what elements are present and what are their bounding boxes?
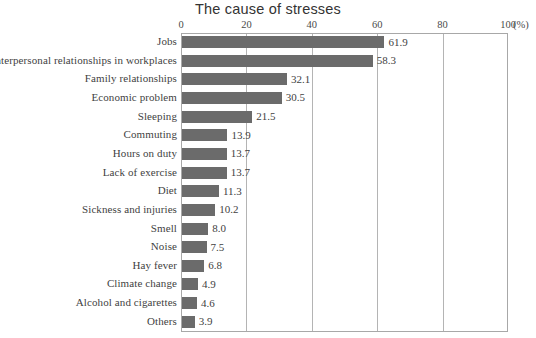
bar-value-label: 6.8 [208, 259, 222, 271]
bar [182, 92, 282, 104]
bar-value-label: 4.6 [201, 297, 215, 309]
category-label: Sleeping [138, 110, 177, 122]
chart-title: The cause of stresses [0, 1, 536, 17]
bar [182, 185, 219, 197]
x-axis-unit-label: (%) [513, 19, 529, 30]
bar-row: Noise7.5 [0, 238, 536, 257]
category-label: Alcohol and cigarettes [76, 296, 177, 308]
bar-value-label: 4.9 [202, 278, 216, 290]
bar-value-label: 30.5 [286, 91, 305, 103]
x-tick-label-60: 60 [372, 19, 383, 30]
bar-value-label: 21.5 [256, 110, 275, 122]
x-axis-tick-labels: 020406080100(%) [0, 19, 536, 33]
category-label: Climate change [107, 277, 177, 289]
bar-value-label: 58.3 [377, 54, 396, 66]
category-label: Sickness and injuries [82, 203, 177, 215]
x-tick-label-80: 80 [437, 19, 448, 30]
bar [182, 260, 204, 272]
bar [182, 167, 227, 179]
bar-row: Lack of exercise13.7 [0, 164, 536, 183]
bar-row: Others3.9 [0, 313, 536, 332]
bar-value-label: 8.0 [212, 222, 226, 234]
x-tick-label-20: 20 [241, 19, 252, 30]
bar-row: Climate change4.9 [0, 275, 536, 294]
bar-row: Sleeping21.5 [0, 108, 536, 127]
category-label: Diet [158, 184, 177, 196]
x-tick-label-0: 0 [178, 19, 183, 30]
bar-row: Sickness and injuries10.2 [0, 201, 536, 220]
bar-row: Family relationships32.1 [0, 70, 536, 89]
category-label: Smell [151, 222, 177, 234]
bar-row: Diet11.3 [0, 182, 536, 201]
bar-row: Hours on duty13.7 [0, 145, 536, 164]
bar [182, 111, 252, 123]
category-label: Interpersonal relationships in workplace… [0, 54, 177, 66]
category-label: Economic problem [91, 91, 177, 103]
bar-rows: Jobs61.9Interpersonal relationships in w… [0, 33, 536, 332]
bar [182, 55, 373, 67]
bar-value-label: 11.3 [223, 185, 242, 197]
bar [182, 148, 227, 160]
bar [182, 241, 207, 253]
category-label: Jobs [157, 35, 177, 47]
bar-value-label: 7.5 [211, 241, 225, 253]
bar-row: Economic problem30.5 [0, 89, 536, 108]
category-label: Hours on duty [113, 147, 177, 159]
bar-row: Alcohol and cigarettes4.6 [0, 294, 536, 313]
category-label: Family relationships [85, 72, 177, 84]
category-label: Noise [151, 240, 177, 252]
bar [182, 129, 227, 141]
bar-row: Commuting13.9 [0, 126, 536, 145]
bar-chart: The cause of stresses 020406080100(%) Jo… [0, 0, 536, 338]
bar-value-label: 61.9 [388, 36, 407, 48]
category-label: Hay fever [132, 259, 177, 271]
x-tick-label-40: 40 [307, 19, 318, 30]
bar-value-label: 32.1 [291, 73, 310, 85]
bar-value-label: 13.7 [231, 147, 250, 159]
category-label: Others [147, 315, 177, 327]
bar [182, 297, 197, 309]
bar [182, 316, 195, 328]
bar-value-label: 13.7 [231, 166, 250, 178]
bar [182, 278, 198, 290]
bar [182, 73, 287, 85]
bar-row: Jobs61.9 [0, 33, 536, 52]
bar-value-label: 3.9 [199, 315, 213, 327]
category-label: Lack of exercise [103, 166, 177, 178]
bar-row: Smell8.0 [0, 220, 536, 239]
bar [182, 36, 384, 48]
bar [182, 223, 208, 235]
bar-value-label: 10.2 [219, 203, 238, 215]
bar-value-label: 13.9 [231, 129, 250, 141]
bar-row: Hay fever6.8 [0, 257, 536, 276]
category-label: Commuting [124, 128, 177, 140]
bar [182, 204, 215, 216]
bar-row: Interpersonal relationships in workplace… [0, 52, 536, 71]
